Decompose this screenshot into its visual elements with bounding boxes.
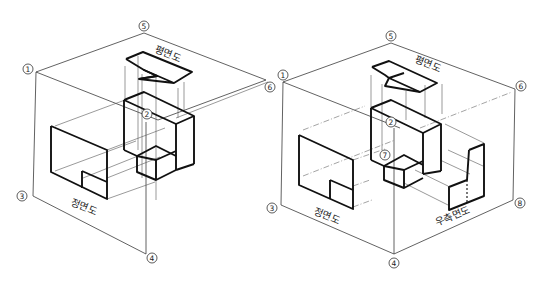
svg-text:6: 6	[519, 82, 524, 91]
left-front-view	[51, 126, 107, 199]
left-projection-box	[33, 33, 266, 254]
svg-text:7: 7	[383, 151, 388, 160]
left-plan-view-label: 평면도	[153, 44, 182, 64]
svg-text:1: 1	[26, 65, 31, 74]
right-marker-1: 1	[278, 70, 288, 80]
left-marker-4: 4	[147, 253, 157, 263]
left-marker-2: 2	[142, 109, 152, 119]
left-front-view-label: 정면도	[69, 197, 98, 217]
svg-text:2: 2	[389, 118, 394, 127]
left-marker-5: 5	[139, 21, 149, 31]
right-front-view	[299, 135, 353, 209]
svg-text:4: 4	[150, 254, 155, 263]
right-marker-8: 8	[515, 198, 525, 208]
right-marker-3: 3	[267, 203, 277, 213]
right-marker-7: 7	[380, 150, 390, 160]
svg-text:3: 3	[270, 204, 275, 213]
svg-text:5: 5	[142, 22, 147, 31]
left-marker-3: 3	[17, 191, 27, 201]
right-side-view	[449, 144, 484, 210]
projection-diagram: 1 5 6 2 3 4 평면도 정면도	[0, 0, 547, 288]
right-figure: 1 5 6 2 7 3 8 4 평면도	[267, 31, 526, 268]
right-marker-5: 5	[386, 31, 396, 41]
left-plan-view	[126, 52, 192, 83]
left-marker-6: 6	[265, 82, 275, 92]
svg-text:2: 2	[145, 110, 150, 119]
svg-text:6: 6	[268, 83, 273, 92]
svg-text:1: 1	[281, 71, 286, 80]
right-marker-6: 6	[516, 81, 526, 91]
svg-text:8: 8	[518, 199, 523, 208]
right-marker-4: 4	[389, 258, 399, 268]
left-figure: 1 5 6 2 3 4 평면도 정면도	[17, 21, 275, 263]
svg-text:4: 4	[392, 259, 397, 268]
left-marker-1: 1	[23, 64, 33, 74]
right-front-view-label: 정면도	[312, 206, 341, 226]
svg-text:5: 5	[389, 32, 394, 41]
svg-text:3: 3	[20, 192, 25, 201]
right-marker-2: 2	[386, 117, 396, 127]
